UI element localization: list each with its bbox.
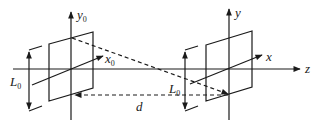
right-back-top (185, 46, 198, 50)
L0-right-label: L0 (168, 81, 180, 98)
L0-left-label: L0 (9, 74, 21, 91)
diagram-canvas: y0 x0 L0 y x L0 z d (0, 0, 320, 126)
projection-line (72, 38, 228, 94)
x-label: x (265, 49, 272, 64)
left-back-top (29, 46, 42, 50)
d-label: d (136, 99, 143, 114)
left-back-bottom (29, 106, 42, 111)
x0-label: x0 (104, 51, 115, 68)
y-label: y (233, 5, 241, 20)
x0-axis (32, 56, 103, 85)
y0-label: y0 (75, 7, 87, 24)
right-frame (185, 9, 262, 120)
left-frame (29, 12, 103, 120)
right-back-bottom (185, 106, 198, 111)
z-label: z (304, 61, 310, 76)
